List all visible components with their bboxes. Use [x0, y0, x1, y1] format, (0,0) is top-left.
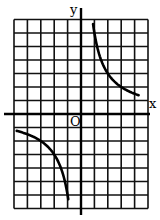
y-axis-label: y — [69, 2, 78, 17]
x-axis-label: x — [149, 96, 157, 111]
curves — [17, 24, 139, 199]
origin-label: O — [70, 114, 81, 129]
hyperbola-chart: x y O — [0, 0, 160, 220]
